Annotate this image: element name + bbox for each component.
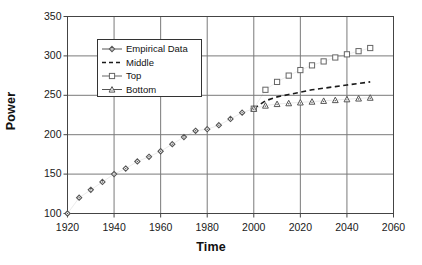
x-tick-label: 2040 — [325, 221, 369, 233]
data-point-diamond — [228, 116, 233, 121]
data-point-diamond — [111, 172, 116, 177]
data-point-square-open — [333, 55, 338, 60]
data-point-diamond — [170, 142, 175, 147]
x-tick-label: 1980 — [185, 221, 229, 233]
x-tick-label: 1920 — [46, 221, 90, 233]
data-point-diamond — [100, 179, 105, 184]
data-point-square-open — [286, 73, 291, 78]
legend-label-empirical-data: Empirical Data — [126, 43, 188, 54]
data-point-square-open — [309, 63, 314, 68]
data-point-square-open — [109, 73, 114, 78]
y-axis-title: Power — [4, 81, 18, 141]
data-point-diamond — [135, 159, 140, 164]
series-bottom — [251, 95, 373, 112]
x-tick-label: 2060 — [372, 221, 416, 233]
data-point-diamond — [193, 128, 198, 133]
x-tick-label: 1940 — [92, 221, 136, 233]
x-tick-label: 2000 — [232, 221, 276, 233]
data-point-square-open — [344, 52, 349, 57]
data-point-square-open — [274, 79, 279, 84]
y-tick-label: 300 — [28, 49, 62, 61]
y-tick-label: 250 — [28, 88, 62, 100]
legend-label-middle: Middle — [126, 57, 154, 68]
data-point-diamond — [181, 134, 186, 139]
data-point-diamond — [77, 195, 82, 200]
x-axis-title: Time — [0, 240, 422, 254]
data-point-square-open — [263, 87, 268, 92]
chart-figure: Power Time 10015020025030035019201940196… — [0, 0, 422, 265]
data-point-square-open — [298, 67, 303, 72]
data-point-diamond — [240, 110, 245, 115]
data-point-square-open — [368, 45, 373, 50]
data-point-diamond — [146, 154, 151, 159]
data-point-diamond — [88, 187, 93, 192]
data-point-diamond — [158, 149, 163, 154]
data-point-diamond — [205, 127, 210, 132]
y-tick-label: 200 — [28, 128, 62, 140]
x-tick-label: 2020 — [278, 221, 322, 233]
data-point-square-open — [321, 59, 326, 64]
legend-label-top: Top — [126, 70, 141, 81]
y-tick-label: 350 — [28, 10, 62, 22]
legend-label-bottom: Bottom — [126, 84, 156, 95]
data-point-diamond — [123, 166, 128, 171]
data-point-square-open — [356, 49, 361, 54]
data-point-diamond — [216, 123, 221, 128]
y-tick-label: 100 — [28, 207, 62, 219]
y-tick-label: 150 — [28, 167, 62, 179]
x-tick-label: 1960 — [139, 221, 183, 233]
data-point-diamond — [65, 211, 70, 216]
